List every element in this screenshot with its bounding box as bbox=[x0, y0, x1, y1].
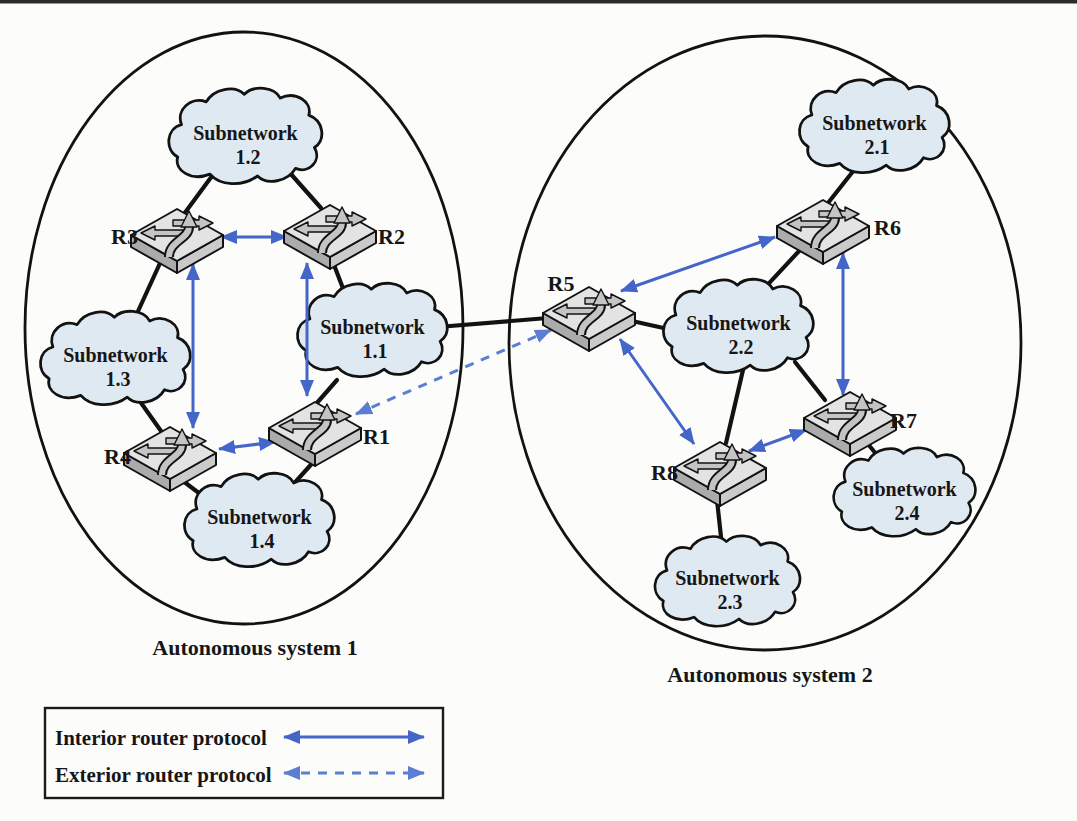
router-r6-icon bbox=[777, 200, 869, 264]
subnetwork-1-1: Subnetwork 1.1 bbox=[297, 283, 447, 376]
interior-arrow-r4-r1 bbox=[219, 442, 275, 449]
router-r3-icon bbox=[131, 209, 223, 273]
subnetwork-2-2-name: Subnetwork bbox=[686, 312, 791, 334]
router-r7-label: R7 bbox=[890, 408, 917, 433]
subnetwork-2-3-number: 2.3 bbox=[718, 591, 743, 613]
legend-interior-label: Interior router protocol bbox=[55, 726, 267, 750]
subnetwork-1-2-name: Subnetwork bbox=[193, 122, 298, 144]
link-s22-r8 bbox=[726, 370, 743, 443]
subnetwork-2-1-name: Subnetwork bbox=[822, 112, 927, 134]
router-r3-label: R3 bbox=[111, 224, 138, 249]
subnetwork-1-4: Subnetwork 1.4 bbox=[184, 473, 334, 566]
link-s11-r5 bbox=[438, 317, 560, 327]
subnetwork-1-3: Subnetwork 1.3 bbox=[40, 311, 190, 404]
subnetwork-1-3-number: 1.3 bbox=[106, 368, 131, 390]
router-r8-label: R8 bbox=[651, 460, 678, 485]
subnetwork-2-3: Subnetwork 2.3 bbox=[655, 536, 800, 626]
router-r4-icon bbox=[124, 427, 216, 491]
link-s13-r4 bbox=[139, 400, 161, 431]
subnetwork-2-2: Subnetwork 2.2 bbox=[663, 279, 813, 372]
router-r1-icon bbox=[269, 402, 361, 466]
link-s12-r2 bbox=[290, 173, 321, 208]
router-r1-label: R1 bbox=[363, 424, 390, 449]
page-top-edge bbox=[0, 0, 1077, 4]
subnetwork-2-4-number: 2.4 bbox=[895, 502, 920, 524]
subnetwork-1-2: Subnetwork 1.2 bbox=[169, 88, 322, 183]
link-s22-r7 bbox=[795, 362, 825, 400]
subnetwork-1-1-name: Subnetwork bbox=[320, 316, 425, 338]
subnetwork-1-2-number: 1.2 bbox=[236, 146, 261, 168]
legend: Interior router protocol Exterior router… bbox=[45, 708, 443, 798]
subnetwork-2-4-name: Subnetwork bbox=[852, 478, 957, 500]
router-r4-label: R4 bbox=[104, 444, 131, 469]
subnetwork-2-3-name: Subnetwork bbox=[675, 567, 780, 589]
subnetwork-1-3-name: Subnetwork bbox=[63, 344, 168, 366]
figure-page: Subnetwork 1.2 Subnetwork 1.3 Subnetwork… bbox=[0, 0, 1077, 821]
router-r2-icon bbox=[284, 205, 376, 269]
link-s12-r3 bbox=[184, 176, 212, 214]
subnetwork-1-4-number: 1.4 bbox=[250, 530, 275, 552]
as1-caption: Autonomous system 1 bbox=[152, 635, 357, 660]
network-diagram: Subnetwork 1.2 Subnetwork 1.3 Subnetwork… bbox=[0, 0, 1077, 821]
subnetwork-2-1: Subnetwork 2.1 bbox=[799, 79, 949, 172]
subnetwork-2-1-number: 2.1 bbox=[865, 136, 890, 158]
router-r8-icon bbox=[674, 442, 766, 506]
subnetwork-2-2-number: 2.2 bbox=[729, 336, 754, 358]
router-r5-label: R5 bbox=[548, 271, 575, 296]
legend-exterior-label: Exterior router protocol bbox=[55, 763, 272, 787]
subnetwork-1-4-name: Subnetwork bbox=[207, 506, 312, 528]
router-r6-label: R6 bbox=[874, 215, 901, 240]
link-r1-s11 bbox=[316, 380, 337, 404]
interior-arrow-r8-r7 bbox=[749, 430, 806, 451]
subnetwork-1-1-number: 1.1 bbox=[363, 340, 388, 362]
as2-caption: Autonomous system 2 bbox=[667, 662, 872, 687]
router-r2-label: R2 bbox=[378, 224, 405, 249]
router-r7-icon bbox=[804, 392, 896, 456]
subnetwork-2-4: Subnetwork 2.4 bbox=[834, 448, 976, 536]
